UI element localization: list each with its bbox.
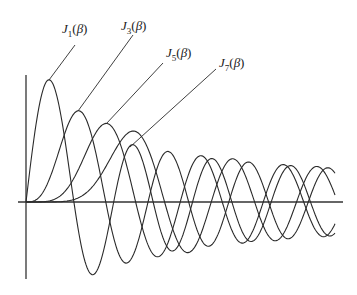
label-arg: β <box>77 21 83 36</box>
curve-j1 <box>26 80 335 275</box>
label-sub: 3 <box>127 26 132 36</box>
label-j7: J7(β) <box>219 56 244 73</box>
curves <box>26 80 335 275</box>
label-j5: J5(β) <box>166 46 191 63</box>
label-j3: J3(β) <box>121 19 146 36</box>
label-sub: 7 <box>225 63 230 73</box>
label-arg: β <box>136 18 142 33</box>
label-arg: β <box>181 45 187 60</box>
bessel-chart: J1(β) J3(β) J5(β) J7(β) <box>0 0 357 295</box>
label-j1: J1(β) <box>62 22 87 39</box>
label-sub: 1 <box>68 29 73 39</box>
label-arg: β <box>234 55 240 70</box>
leader-line <box>130 69 216 147</box>
label-sub: 5 <box>172 53 177 63</box>
leader-line <box>106 63 163 124</box>
leader-line <box>49 45 75 80</box>
leader-line <box>78 35 133 111</box>
